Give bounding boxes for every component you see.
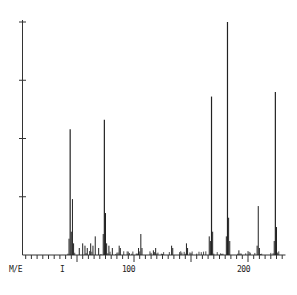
x-axis-label: M/E bbox=[9, 265, 22, 274]
mass-spectrum-chart bbox=[0, 0, 297, 295]
axes bbox=[19, 20, 285, 262]
x-tick-label-100: 100 bbox=[122, 265, 135, 274]
peaks bbox=[68, 22, 279, 255]
marker-label: I bbox=[60, 265, 64, 274]
x-tick-label-200: 200 bbox=[237, 265, 250, 274]
